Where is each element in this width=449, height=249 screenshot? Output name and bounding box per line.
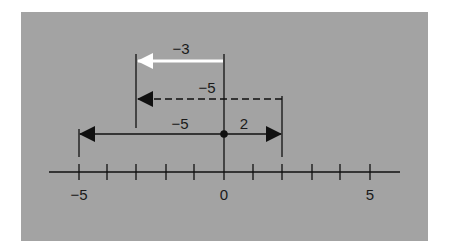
tick-label-0: 0 bbox=[220, 186, 228, 203]
number-line-axis: −5 0 5 bbox=[49, 164, 400, 203]
arrow-label-neg3: −3 bbox=[172, 40, 189, 57]
arrow-label-neg5-dashed: −5 bbox=[198, 79, 215, 96]
guide-lines bbox=[79, 54, 282, 164]
origin-dot bbox=[220, 130, 228, 138]
arrow-dashed-neg5: −5 bbox=[138, 79, 282, 99]
arrow-label-neg5-solid: −5 bbox=[171, 115, 188, 132]
tick-label-neg5: −5 bbox=[70, 186, 87, 203]
arrow-start-to-2: 2 bbox=[224, 115, 281, 134]
tick-label-5: 5 bbox=[366, 186, 374, 203]
arrow-result-neg3: −3 bbox=[138, 40, 223, 61]
number-line-diagram: −5 0 5 −5 2 −5 −3 bbox=[0, 0, 449, 249]
arrow-start-to-neg5: −5 bbox=[80, 115, 224, 134]
arrow-label-2: 2 bbox=[240, 115, 248, 132]
